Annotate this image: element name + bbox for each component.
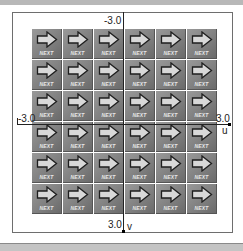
texture-tile: NEXT [94, 29, 124, 59]
texture-tile: NEXT [94, 153, 124, 183]
texture-tile: NEXT [32, 91, 62, 121]
v-min-label: -3.0 [104, 16, 121, 26]
texture-tile: NEXT [125, 122, 155, 152]
texture-tile: NEXT [187, 184, 217, 214]
right-arrow-icon [160, 93, 182, 110]
tile-label: NEXT [63, 50, 92, 56]
tile-label: NEXT [63, 174, 92, 180]
tile-label: NEXT [32, 50, 61, 56]
right-arrow-icon [129, 62, 151, 79]
right-arrow-icon [36, 93, 58, 110]
right-arrow-icon [36, 186, 58, 203]
tile-label: NEXT [32, 205, 61, 211]
tile-label: NEXT [156, 81, 185, 87]
texture-tile: NEXT [187, 153, 217, 183]
right-arrow-icon [191, 62, 213, 79]
texture-tile: NEXT [125, 184, 155, 214]
texture-tile: NEXT [187, 29, 217, 59]
right-arrow-icon [98, 31, 120, 48]
tile-label: NEXT [125, 81, 154, 87]
texture-tile: NEXT [125, 153, 155, 183]
right-arrow-icon [160, 31, 182, 48]
right-arrow-icon [129, 93, 151, 110]
bottom-bar [0, 243, 243, 251]
texture-tile: NEXT [156, 91, 186, 121]
texture-tile: NEXT [156, 122, 186, 152]
right-arrow-icon [36, 155, 58, 172]
right-arrow-icon [67, 62, 89, 79]
tile-label: NEXT [94, 50, 123, 56]
v-axis-name: v [127, 222, 132, 232]
right-arrow-icon [191, 31, 213, 48]
right-arrow-icon [67, 124, 89, 141]
u-min-label: -3.0 [18, 114, 35, 124]
texture-tile-grid: NEXTNEXTNEXTNEXTNEXTNEXTNEXTNEXTNEXTNEXT… [32, 29, 217, 214]
tile-label: NEXT [187, 174, 216, 180]
right-arrow-icon [160, 155, 182, 172]
tile-label: NEXT [32, 112, 61, 118]
right-arrow-icon [67, 31, 89, 48]
texture-tile: NEXT [63, 122, 93, 152]
right-arrow-icon [160, 62, 182, 79]
tile-label: NEXT [63, 205, 92, 211]
right-arrow-icon [129, 186, 151, 203]
right-arrow-icon [98, 186, 120, 203]
texture-tile: NEXT [156, 153, 186, 183]
texture-tile: NEXT [156, 184, 186, 214]
texture-tile: NEXT [63, 91, 93, 121]
tile-label: NEXT [125, 205, 154, 211]
tile-label: NEXT [156, 205, 185, 211]
right-arrow-icon [36, 62, 58, 79]
right-arrow-icon [191, 93, 213, 110]
texture-tile: NEXT [125, 60, 155, 90]
tile-label: NEXT [32, 143, 61, 149]
texture-tile: NEXT [156, 29, 186, 59]
texture-tile: NEXT [32, 153, 62, 183]
right-arrow-icon [191, 155, 213, 172]
texture-tile: NEXT [187, 60, 217, 90]
tile-label: NEXT [32, 174, 61, 180]
texture-tile: NEXT [156, 60, 186, 90]
v-axis-line [123, 12, 124, 232]
texture-tile: NEXT [63, 153, 93, 183]
texture-tile: NEXT [187, 91, 217, 121]
tile-label: NEXT [187, 205, 216, 211]
right-arrow-icon [129, 31, 151, 48]
right-arrow-icon [67, 93, 89, 110]
texture-tile: NEXT [32, 184, 62, 214]
tile-label: NEXT [187, 112, 216, 118]
u-axis-line [17, 124, 229, 125]
right-arrow-icon [160, 186, 182, 203]
tile-label: NEXT [156, 143, 185, 149]
u-max-label: 3.0 [216, 114, 230, 124]
texture-tile: NEXT [63, 60, 93, 90]
v-axis-arrowhead [122, 230, 125, 233]
texture-tile: NEXT [32, 60, 62, 90]
texture-tile: NEXT [63, 29, 93, 59]
texture-tile: NEXT [125, 29, 155, 59]
tile-label: NEXT [125, 143, 154, 149]
right-arrow-icon [129, 124, 151, 141]
right-arrow-icon [36, 31, 58, 48]
texture-tile: NEXT [32, 29, 62, 59]
tile-label: NEXT [94, 112, 123, 118]
tile-label: NEXT [187, 81, 216, 87]
tile-label: NEXT [187, 50, 216, 56]
right-arrow-icon [98, 155, 120, 172]
u-axis-name: u [222, 126, 228, 136]
tile-label: NEXT [156, 174, 185, 180]
texture-tile: NEXT [187, 122, 217, 152]
right-arrow-icon [191, 124, 213, 141]
tile-label: NEXT [156, 50, 185, 56]
texture-tile: NEXT [94, 184, 124, 214]
tile-label: NEXT [63, 143, 92, 149]
texture-tile: NEXT [94, 60, 124, 90]
texture-tile: NEXT [63, 184, 93, 214]
tile-label: NEXT [156, 112, 185, 118]
texture-tile: NEXT [32, 122, 62, 152]
tile-label: NEXT [125, 112, 154, 118]
texture-tile: NEXT [94, 91, 124, 121]
tile-label: NEXT [94, 143, 123, 149]
right-arrow-icon [191, 186, 213, 203]
tile-label: NEXT [94, 205, 123, 211]
